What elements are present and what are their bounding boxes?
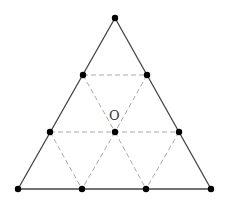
point-bottom-1 [15, 186, 21, 192]
outer-triangle [18, 18, 211, 189]
dashed-line [82, 132, 115, 189]
point-upper-right [144, 72, 150, 78]
point-center [112, 129, 118, 135]
dashed-line [146, 132, 179, 189]
dashed-line [115, 132, 146, 189]
dashed-line [83, 75, 115, 132]
point-upper-left [80, 72, 86, 78]
dashed-line [115, 75, 147, 132]
center-label: O [109, 108, 120, 123]
dashed-line [50, 132, 82, 189]
point-bottom-4 [208, 186, 214, 192]
point-bottom-3 [143, 186, 149, 192]
point-mid-right [176, 129, 182, 135]
point-bottom-2 [79, 186, 85, 192]
point-mid-left [47, 129, 53, 135]
triangle-diagram: O [0, 0, 230, 205]
vertex-points [15, 15, 214, 192]
point-top [112, 15, 118, 21]
